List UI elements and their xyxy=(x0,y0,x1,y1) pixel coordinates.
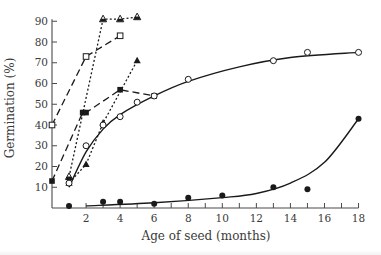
data-point-filled-square xyxy=(83,110,89,116)
x-tick-label: 14 xyxy=(284,212,298,224)
data-point-filled-circle xyxy=(356,116,362,122)
data-point-open-circle xyxy=(151,93,157,99)
x-tick-label: 18 xyxy=(352,212,365,224)
data-point-filled-square xyxy=(49,178,55,184)
data-point-filled-circle xyxy=(270,184,276,190)
data-point-open-circle xyxy=(117,114,123,120)
x-tick-label: 10 xyxy=(216,212,229,224)
data-point-open-square xyxy=(117,33,123,39)
series-filled-triangles-dotted xyxy=(65,57,140,186)
data-point-open-circle xyxy=(304,49,310,55)
series-open-circles-solid xyxy=(66,49,362,187)
page-edge xyxy=(0,250,381,255)
y-tick-label: 60 xyxy=(35,77,48,89)
series-line xyxy=(69,52,359,187)
data-point-open-circle xyxy=(66,180,72,186)
series-filled-circles-solid xyxy=(66,116,362,209)
y-tick-label: 80 xyxy=(35,36,48,48)
y-tick-label: 90 xyxy=(35,15,48,27)
series-filled-squares-dashed xyxy=(49,87,157,184)
data-point-filled-circle xyxy=(219,193,225,199)
data-point-filled-circle xyxy=(185,195,191,201)
y-axis-title: Germination (%) xyxy=(3,58,17,159)
x-tick-label: 12 xyxy=(250,212,263,224)
data-point-filled-circle xyxy=(304,186,310,192)
y-tick-label: 40 xyxy=(35,119,48,131)
y-tick-label: 70 xyxy=(35,56,48,68)
data-point-filled-circle xyxy=(117,199,123,205)
chart-canvas: 10203040506070809024681012141618 Germina… xyxy=(0,0,381,255)
y-tick-label: 10 xyxy=(35,181,48,193)
x-tick-label: 16 xyxy=(318,212,332,224)
data-point-open-circle xyxy=(83,143,89,149)
data-point-filled-circle xyxy=(151,201,157,207)
axes: 10203040506070809024681012141618 xyxy=(35,15,366,224)
data-point-open-circle xyxy=(100,122,106,128)
data-point-open-square xyxy=(83,54,89,60)
germination-chart: 10203040506070809024681012141618 Germina… xyxy=(0,0,381,255)
series-layer xyxy=(49,13,361,209)
data-point-filled-circle xyxy=(66,203,72,209)
x-tick-label: 6 xyxy=(151,212,158,224)
series-line xyxy=(69,17,137,177)
x-tick-label: 4 xyxy=(117,212,124,224)
series-half-filled-triangles-dotted xyxy=(65,13,140,179)
data-point-filled-triangle xyxy=(82,160,89,167)
data-point-open-circle xyxy=(134,99,140,105)
data-point-open-circle xyxy=(270,58,276,64)
x-tick-label: 8 xyxy=(185,212,192,224)
data-point-open-circle xyxy=(185,76,191,82)
y-tick-label: 30 xyxy=(35,139,48,151)
x-axis-title: Age of seed (months) xyxy=(140,229,270,243)
data-point-open-circle xyxy=(356,49,362,55)
data-point-filled-circle xyxy=(100,199,106,205)
data-point-open-square xyxy=(49,122,55,128)
y-tick-label: 50 xyxy=(35,98,48,110)
data-point-filled-triangle xyxy=(134,57,141,64)
x-tick-label: 2 xyxy=(83,212,90,224)
y-tick-label: 20 xyxy=(35,160,48,172)
